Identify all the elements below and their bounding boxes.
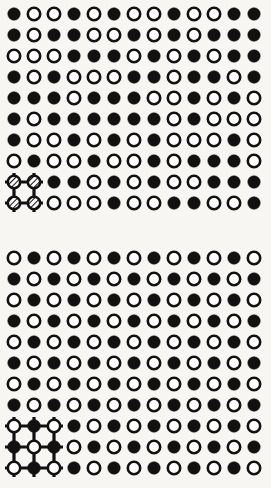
filled-site [68, 134, 80, 146]
open-site [248, 92, 260, 104]
filled-site [108, 252, 120, 264]
filled-site [228, 252, 240, 264]
open-site [228, 71, 240, 83]
open-site [108, 315, 120, 327]
open-site [208, 336, 220, 348]
filled-site [108, 113, 120, 125]
open-site [108, 29, 120, 41]
filled-site [188, 92, 200, 104]
open-site [68, 315, 80, 327]
open-site [228, 357, 240, 369]
unit-cell-node-site [28, 420, 40, 432]
open-site [8, 252, 20, 264]
filled-site [188, 420, 200, 432]
filled-site [148, 71, 160, 83]
open-site [208, 50, 220, 62]
filled-site [68, 29, 80, 41]
open-site [188, 399, 200, 411]
filled-site [248, 441, 260, 453]
open-site [248, 462, 260, 474]
unit-cell-node-site [8, 197, 20, 209]
open-site [228, 273, 240, 285]
filled-site [188, 197, 200, 209]
filled-site [68, 420, 80, 432]
filled-site [108, 134, 120, 146]
filled-site [228, 8, 240, 20]
unit-cell-node-site [8, 420, 20, 432]
open-site [148, 357, 160, 369]
open-site [128, 8, 140, 20]
unit-cell-node-site [48, 462, 60, 474]
filled-site [108, 197, 120, 209]
open-site [188, 273, 200, 285]
lattice-canvas [0, 0, 271, 488]
open-site [148, 197, 160, 209]
open-site [128, 50, 140, 62]
filled-site [188, 294, 200, 306]
filled-site [248, 176, 260, 188]
filled-site [208, 71, 220, 83]
open-site [248, 113, 260, 125]
filled-site [88, 315, 100, 327]
filled-site [228, 420, 240, 432]
filled-site [8, 113, 20, 125]
filled-site [48, 29, 60, 41]
open-site [148, 273, 160, 285]
filled-site [128, 357, 140, 369]
open-site [68, 273, 80, 285]
open-site [48, 294, 60, 306]
open-site [48, 134, 60, 146]
open-site [128, 420, 140, 432]
open-site [248, 420, 260, 432]
open-site [168, 294, 180, 306]
open-site [228, 113, 240, 125]
filled-site [188, 71, 200, 83]
filled-site [208, 29, 220, 41]
filled-site [128, 71, 140, 83]
filled-site [88, 399, 100, 411]
filled-site [48, 273, 60, 285]
open-site [148, 399, 160, 411]
open-site [128, 252, 140, 264]
filled-site [208, 357, 220, 369]
filled-site [128, 273, 140, 285]
filled-site [8, 273, 20, 285]
filled-site [188, 336, 200, 348]
open-site [188, 176, 200, 188]
open-site [208, 134, 220, 146]
open-site [8, 378, 20, 390]
filled-site [228, 29, 240, 41]
filled-site [48, 71, 60, 83]
open-site [208, 8, 220, 20]
open-site [88, 252, 100, 264]
filled-site [168, 357, 180, 369]
open-site [48, 8, 60, 20]
filled-site [48, 399, 60, 411]
open-site [28, 8, 40, 20]
open-site [108, 399, 120, 411]
filled-site [28, 378, 40, 390]
filled-site [248, 71, 260, 83]
filled-site [228, 134, 240, 146]
filled-site [228, 378, 240, 390]
unit-cell-node-site [28, 462, 40, 474]
filled-site [248, 399, 260, 411]
filled-site [8, 71, 20, 83]
filled-site [28, 294, 40, 306]
filled-site [108, 8, 120, 20]
open-site [228, 315, 240, 327]
filled-site [48, 176, 60, 188]
open-site [148, 8, 160, 20]
open-site [248, 378, 260, 390]
filled-site [128, 441, 140, 453]
open-site [208, 197, 220, 209]
open-site [228, 197, 240, 209]
filled-site [248, 197, 260, 209]
filled-site [8, 357, 20, 369]
open-site [68, 399, 80, 411]
open-site [128, 176, 140, 188]
filled-site [148, 134, 160, 146]
filled-site [48, 113, 60, 125]
open-site [88, 294, 100, 306]
filled-site [168, 315, 180, 327]
